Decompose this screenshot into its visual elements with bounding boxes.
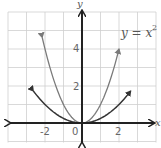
equation-label: y = x (120, 26, 152, 40)
y-tick-4: 4 (73, 43, 79, 54)
x-axis-label: x (155, 117, 161, 128)
x-tick-neg2: -2 (40, 126, 50, 137)
parabola-chart: x y -2 0 2 2 4 y = x 2 (0, 0, 161, 148)
x-tick-2: 2 (115, 126, 121, 137)
x-tick-0: 0 (72, 126, 78, 137)
y-tick-2: 2 (73, 81, 79, 92)
equation-exponent: 2 (152, 23, 157, 32)
curve-y-equals-x-squared (42, 37, 119, 123)
y-axis-label: y (76, 0, 83, 9)
